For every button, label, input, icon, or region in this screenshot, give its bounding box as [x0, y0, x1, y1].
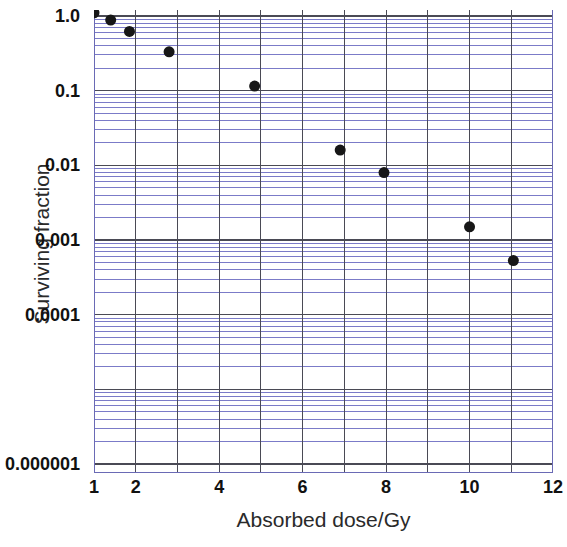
- x-axis-title: Absorbed dose/Gy: [94, 508, 553, 532]
- x-tick-label: 4: [199, 478, 239, 496]
- x-tick-label: 2: [116, 478, 156, 496]
- x-tick-label: 12: [533, 478, 567, 496]
- data-point: [94, 10, 100, 18]
- y-tick-label: 0.001: [35, 231, 80, 249]
- y-tick-label: 0.1: [55, 82, 80, 100]
- vertical-gridlines: [94, 10, 553, 473]
- y-axis-tick-labels: 1.00.10.010.0010.00010.000001: [0, 0, 88, 547]
- plot-canvas: [94, 10, 553, 473]
- data-point: [508, 255, 519, 266]
- data-point: [124, 26, 135, 37]
- data-point: [335, 145, 346, 156]
- y-tick-label: 0.0001: [25, 306, 80, 324]
- axis-frame: [94, 10, 553, 473]
- y-tick-label: 0.01: [45, 156, 80, 174]
- data-point: [105, 15, 116, 26]
- data-point: [379, 167, 390, 178]
- x-tick-label: 1: [74, 478, 114, 496]
- data-point-series: [94, 10, 519, 266]
- minor-horizontal-gridlines: [94, 19, 553, 441]
- data-point: [164, 46, 175, 57]
- plot-area: [94, 10, 553, 473]
- data-point: [464, 221, 475, 232]
- data-point: [249, 81, 260, 92]
- y-tick-label: 0.000001: [5, 455, 80, 473]
- x-tick-label: 6: [283, 478, 323, 496]
- x-tick-label: 10: [450, 478, 490, 496]
- x-tick-label: 8: [366, 478, 406, 496]
- y-tick-label: 1.0: [55, 7, 80, 25]
